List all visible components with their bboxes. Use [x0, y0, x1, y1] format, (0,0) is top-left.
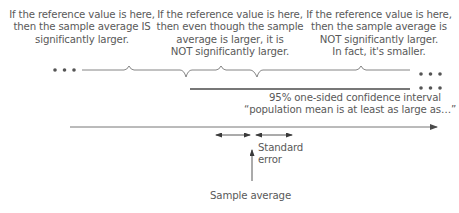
brace-smaller — [257, 66, 410, 77]
brace-significant — [82, 66, 186, 77]
standard-error-label: Standard error — [258, 142, 303, 167]
confidence-interval-label: 95% one-sided confidence interval “popul… — [244, 92, 444, 117]
ellipsis-left-icon — [53, 68, 76, 72]
interval-line-2: “population mean is at least as large as… — [244, 104, 444, 116]
ellipsis-interval-icon — [419, 86, 442, 90]
standard-error-line-1: Standard — [258, 142, 303, 154]
sample-average-label: Sample average — [210, 190, 291, 202]
brace-not-significant — [186, 66, 257, 77]
standard-error-line-2: error — [258, 154, 303, 166]
ellipsis-right-icon — [419, 72, 442, 76]
interval-line-1: 95% one-sided confidence interval — [244, 92, 444, 104]
